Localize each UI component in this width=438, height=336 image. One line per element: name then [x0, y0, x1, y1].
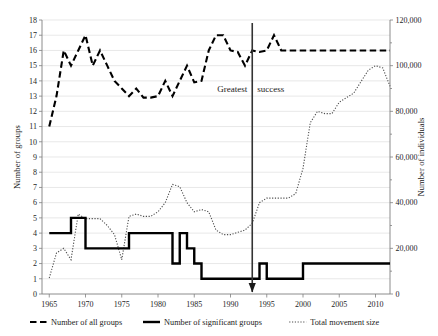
- gridlines: [42, 20, 390, 279]
- y-axis-left-tick-label: 16: [29, 46, 37, 55]
- annotation-arrow-icon: [249, 283, 256, 293]
- series-total-movement-size: [49, 66, 390, 278]
- x-axis-tick-label: 2000: [295, 300, 311, 309]
- y-axis-left-ticks: 0123456789101112131415161718: [29, 16, 42, 299]
- y-axis-right-tick-label: 60,000: [396, 153, 418, 162]
- x-axis-tick-label: 1990: [223, 300, 239, 309]
- legend-label: Number of all groups: [51, 318, 122, 327]
- y-axis-left-tick-label: 3: [33, 244, 37, 253]
- chart-canvas: 0123456789101112131415161718 020,00040,0…: [0, 0, 438, 336]
- legend-label: Total movement size: [310, 318, 379, 327]
- annotation-text-left: Greatest: [217, 84, 247, 94]
- y-axis-left-tick-label: 9: [33, 153, 37, 162]
- y-axis-left-tick-label: 0: [33, 290, 37, 299]
- y-axis-left-tick-label: 18: [29, 16, 37, 25]
- y-axis-left-tick-label: 8: [33, 168, 37, 177]
- y-axis-left-tick-label: 2: [33, 259, 37, 268]
- y-axis-left-tick-label: 6: [33, 198, 37, 207]
- legend-label: Number of significant groups: [164, 318, 262, 327]
- y-axis-right-tick-label: 100,000: [396, 61, 422, 70]
- y-axis-right-tick-label: 120,000: [396, 16, 422, 25]
- y-axis-left-tick-label: 4: [33, 229, 37, 238]
- y-axis-left-tick-label: 15: [29, 61, 37, 70]
- x-axis-ticks: 1965197019751980198519901995200020052010: [41, 294, 383, 309]
- y-axis-right-tick-label: 80,000: [396, 107, 418, 116]
- chart-legend: Number of all groupsNumber of significan…: [30, 318, 380, 327]
- x-axis-tick-label: 1980: [150, 300, 166, 309]
- y-axis-left-tick-label: 14: [29, 77, 37, 86]
- y-axis-left-tick-label: 7: [33, 183, 37, 192]
- chart-figure: 0123456789101112131415161718 020,00040,0…: [0, 0, 438, 336]
- x-axis-tick-label: 1965: [41, 300, 57, 309]
- y-axis-left-tick-label: 5: [33, 214, 37, 223]
- y-axis-left-tick-label: 12: [29, 107, 37, 116]
- y-axis-left-tick-label: 13: [29, 92, 37, 101]
- x-axis-tick-label: 2010: [368, 300, 384, 309]
- x-axis-tick-label: 1985: [186, 300, 202, 309]
- y-axis-left-tick-label: 10: [29, 138, 37, 147]
- x-axis-tick-label: 1995: [259, 300, 275, 309]
- x-axis-tick-label: 1975: [114, 300, 130, 309]
- y-axis-right-tick-label: 20,000: [396, 244, 418, 253]
- y-axis-left-tick-label: 1: [33, 275, 37, 284]
- y-axis-left-tick-label: 11: [29, 122, 37, 131]
- annotation-greatest-success: Greatest success: [217, 23, 284, 293]
- x-axis-tick-label: 1970: [78, 300, 94, 309]
- y-axis-left-title: Number of groups: [12, 107, 22, 207]
- y-axis-left-tick-label: 17: [29, 31, 37, 40]
- x-axis-tick-label: 2005: [331, 300, 347, 309]
- annotation-text-right: success: [257, 84, 284, 94]
- y-axis-right-tick-label: 0: [396, 290, 400, 299]
- y-axis-right-title: Number of individuals: [416, 107, 426, 207]
- y-axis-right-tick-label: 40,000: [396, 198, 418, 207]
